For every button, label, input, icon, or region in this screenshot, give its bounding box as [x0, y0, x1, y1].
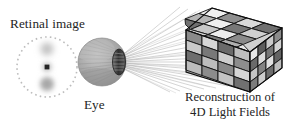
- reconstruction-label-line1: Reconstruction of: [168, 90, 292, 105]
- reconstruction-label: Reconstruction of 4D Light Fields: [168, 90, 292, 120]
- retinal-dot-center-sharp: [45, 65, 50, 70]
- retinal-dot-bottom-blurred: [40, 77, 54, 91]
- reconstruction-label-line2: 4D Light Fields: [168, 105, 292, 120]
- eye-label: Eye: [84, 97, 105, 113]
- retinal-image-label: Retinal image: [10, 16, 85, 32]
- retinal-dot-top-blurred: [41, 43, 54, 56]
